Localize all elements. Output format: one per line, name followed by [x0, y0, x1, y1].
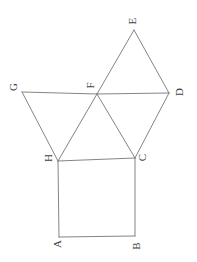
geometry-figure-svg: ABCHFGDE: [0, 0, 197, 262]
edge-DE: [134, 30, 169, 93]
vertex-label-D: D: [173, 88, 185, 96]
edge-GH: [22, 92, 58, 161]
vertex-label-H: H: [42, 154, 54, 162]
edge-HF: [58, 94, 97, 161]
vertex-label-F: F: [84, 82, 96, 88]
edge-CD: [135, 93, 169, 158]
edge-HA: [58, 161, 59, 237]
edge-AB: [59, 236, 135, 237]
edge-GF: [22, 92, 97, 94]
edge-FC: [97, 94, 135, 158]
vertex-label-B: B: [130, 242, 142, 249]
vertex-label-E: E: [126, 17, 138, 24]
vertex-label-C: C: [136, 154, 148, 161]
edge-FE: [97, 30, 134, 94]
vertex-label-A: A: [51, 240, 63, 248]
vertex-label-G: G: [7, 83, 19, 91]
edge-FD: [97, 93, 169, 94]
edge-CH: [58, 158, 135, 161]
geometry-figure: ABCHFGDE: [0, 0, 197, 262]
